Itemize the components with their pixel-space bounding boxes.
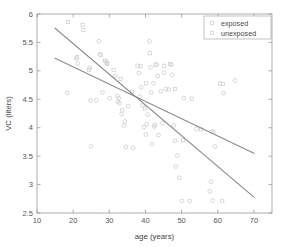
data-marker-unexposed bbox=[190, 97, 193, 100]
y-tick-label: 5 bbox=[29, 66, 33, 75]
data-marker-unexposed bbox=[145, 82, 148, 85]
data-marker-unexposed bbox=[174, 87, 177, 90]
data-marker-exposed bbox=[101, 91, 105, 95]
data-marker-exposed bbox=[156, 74, 160, 78]
x-tick-label: 70 bbox=[250, 216, 258, 225]
data-marker-exposed bbox=[213, 145, 217, 149]
data-marker-unexposed bbox=[148, 52, 151, 55]
data-marker-exposed bbox=[162, 71, 166, 75]
data-marker-exposed bbox=[222, 91, 226, 95]
x-tick-label: 30 bbox=[105, 216, 113, 225]
data-marker-exposed bbox=[150, 142, 154, 146]
x-tick-label: 40 bbox=[141, 216, 149, 225]
data-marker-exposed bbox=[172, 124, 176, 128]
data-marker-exposed bbox=[208, 189, 212, 193]
y-tick-label: 4.5 bbox=[23, 95, 33, 104]
data-marker-exposed bbox=[89, 99, 93, 103]
data-marker-exposed bbox=[188, 199, 192, 203]
data-marker-exposed bbox=[120, 112, 124, 116]
data-marker-exposed bbox=[175, 154, 179, 158]
data-marker-unexposed bbox=[163, 64, 166, 67]
y-tick-label: 4 bbox=[29, 123, 33, 132]
data-marker-exposed bbox=[144, 133, 148, 137]
scatter-plot-figure: 102030405060702.533.544.555.56 age (year… bbox=[0, 0, 287, 247]
data-marker-exposed bbox=[146, 113, 150, 117]
tick-labels: 102030405060702.533.544.555.56 bbox=[23, 10, 259, 225]
data-marker-exposed bbox=[220, 199, 224, 203]
x-tick-label: 20 bbox=[69, 216, 77, 225]
data-marker-exposed bbox=[149, 91, 153, 95]
data-marker-exposed bbox=[74, 56, 78, 60]
data-marker-unexposed bbox=[66, 20, 69, 23]
data-marker-exposed bbox=[211, 199, 215, 203]
data-marker-exposed bbox=[209, 180, 213, 184]
data-marker-exposed bbox=[170, 73, 174, 77]
data-marker-exposed bbox=[145, 122, 149, 126]
y-tick-label: 3 bbox=[29, 180, 33, 189]
data-marker-exposed bbox=[65, 91, 69, 95]
x-tick-label: 50 bbox=[177, 216, 185, 225]
data-marker-exposed bbox=[139, 85, 143, 89]
data-marker-unexposed bbox=[119, 77, 122, 80]
data-marker-exposed bbox=[180, 199, 184, 203]
data-marker-exposed bbox=[195, 127, 199, 131]
legend-label-exposed[interactable]: exposed bbox=[221, 19, 248, 28]
data-marker-exposed bbox=[173, 139, 177, 143]
data-marker-exposed bbox=[94, 99, 98, 103]
data-marker-unexposed bbox=[82, 28, 85, 31]
data-marker-exposed bbox=[124, 145, 128, 149]
data-marker-exposed bbox=[152, 81, 156, 85]
x-tick-label: 60 bbox=[214, 216, 222, 225]
data-marker-exposed bbox=[182, 96, 186, 100]
data-marker-unexposed bbox=[81, 23, 84, 26]
data-marker-exposed bbox=[174, 164, 178, 168]
data-marker-exposed bbox=[233, 79, 237, 83]
data-marker-exposed bbox=[137, 71, 141, 75]
data-marker-exposed bbox=[126, 104, 130, 108]
unexposed-fit bbox=[55, 58, 254, 153]
plot-canvas: 102030405060702.533.544.555.56 age (year… bbox=[0, 0, 287, 247]
y-axis-title: VC (liters) bbox=[4, 96, 13, 131]
data-marker-exposed bbox=[108, 96, 112, 100]
legend[interactable]: exposedunexposed bbox=[204, 16, 271, 39]
exposed-fit bbox=[55, 28, 254, 197]
data-marker-exposed bbox=[122, 124, 126, 128]
data-marker-exposed bbox=[89, 145, 93, 149]
data-marker-unexposed bbox=[112, 68, 115, 71]
regression-lines bbox=[55, 28, 254, 197]
y-tick-label: 2.5 bbox=[23, 209, 33, 218]
data-marker-exposed bbox=[123, 120, 127, 124]
data-marker-exposed bbox=[97, 39, 101, 43]
data-marker-exposed bbox=[149, 66, 153, 70]
y-tick-label: 5.5 bbox=[23, 38, 33, 47]
x-tick-label: 10 bbox=[33, 216, 41, 225]
data-points bbox=[65, 20, 237, 203]
data-marker-unexposed bbox=[181, 139, 184, 142]
data-marker-exposed bbox=[160, 121, 164, 125]
legend-label-unexposed[interactable]: unexposed bbox=[221, 29, 256, 38]
data-marker-exposed bbox=[159, 89, 163, 93]
y-tick-label: 6 bbox=[29, 10, 33, 19]
data-marker-exposed bbox=[157, 133, 161, 137]
data-marker-exposed bbox=[148, 39, 152, 43]
data-marker-exposed bbox=[178, 176, 182, 180]
data-marker-exposed bbox=[76, 62, 80, 66]
x-axis-title: age (years) bbox=[135, 232, 175, 241]
data-marker-exposed bbox=[120, 108, 124, 112]
data-marker-exposed bbox=[131, 146, 135, 150]
y-tick-label: 3.5 bbox=[23, 152, 33, 161]
